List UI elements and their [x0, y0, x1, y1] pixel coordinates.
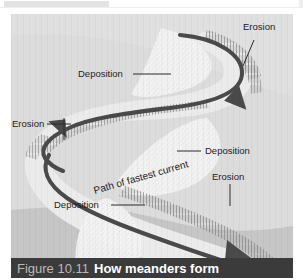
- scanned-page: Erosion Deposition Erosion Deposition Er…: [0, 0, 303, 280]
- figure-meander-diagram: Erosion Deposition Erosion Deposition Er…: [11, 14, 293, 272]
- figure-caption-number: Figure 10.11: [17, 261, 89, 276]
- page-header-rule: [0, 7, 303, 8]
- figure-caption-bar: Figure 10.11 How meanders form: [11, 258, 293, 278]
- scan-texture-overlay: [11, 14, 293, 272]
- label-deposition-middle-right: Deposition: [205, 146, 250, 156]
- figure-caption-title: How meanders form: [94, 261, 219, 276]
- label-erosion-top-right: Erosion: [243, 22, 275, 32]
- label-deposition-top-left: Deposition: [78, 69, 123, 79]
- meander-illustration: [11, 14, 293, 272]
- label-erosion-right: Erosion: [212, 172, 244, 182]
- label-erosion-left: Erosion: [12, 119, 44, 129]
- label-deposition-bottom-left: Deposition: [54, 200, 99, 210]
- page-edge-tick: [299, 0, 303, 8]
